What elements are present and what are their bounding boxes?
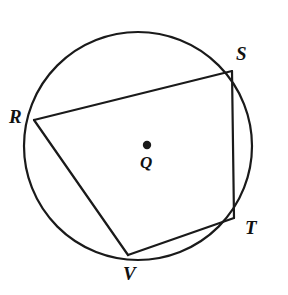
vertex-label-T: T [245,218,257,237]
chord-VR [34,120,128,255]
chord-ST [232,71,234,218]
geometry-figure: R S T V Q [0,0,288,295]
chord-RS [34,71,232,120]
vertex-label-R: R [9,107,22,126]
vertex-label-V: V [123,264,136,283]
vertex-label-S: S [236,44,247,63]
circle-Q [24,32,252,260]
center-label-Q: Q [140,154,152,171]
center-dot [143,141,151,149]
chord-TV [128,218,234,255]
